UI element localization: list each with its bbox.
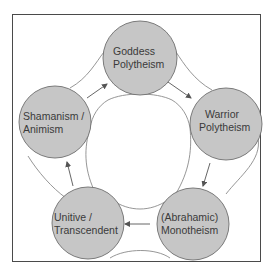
arrow-goddess-to-warrior xyxy=(168,82,191,98)
label-line: Monotheism xyxy=(161,224,218,237)
label-line: Goddess xyxy=(113,45,164,58)
label-line: Shamanism / xyxy=(23,110,84,123)
label-warrior-polytheism: Warrior Polytheism xyxy=(199,108,250,134)
cycle-diagram xyxy=(0,0,271,277)
label-line: Animism xyxy=(23,123,84,136)
label-line: Unitive / xyxy=(54,211,118,224)
label-abrahamic-monotheism: (Abrahamic) Monotheism xyxy=(161,211,218,237)
label-unitive-transcendent: Unitive / Transcendent xyxy=(54,211,118,237)
arrow-warrior-to-abrahamic xyxy=(203,163,210,186)
label-shamanism-animism: Shamanism / Animism xyxy=(23,110,84,136)
label-line: (Abrahamic) xyxy=(161,211,218,224)
label-goddess-polytheism: Goddess Polytheism xyxy=(113,45,164,71)
arrow-unitive-to-shamanism xyxy=(67,162,73,186)
label-line: Transcendent xyxy=(54,224,118,237)
label-line: Polytheism xyxy=(113,58,164,71)
label-line: Polytheism xyxy=(199,121,250,134)
label-line: Warrior xyxy=(199,108,250,121)
arrow-shamanism-to-goddess xyxy=(87,84,107,98)
